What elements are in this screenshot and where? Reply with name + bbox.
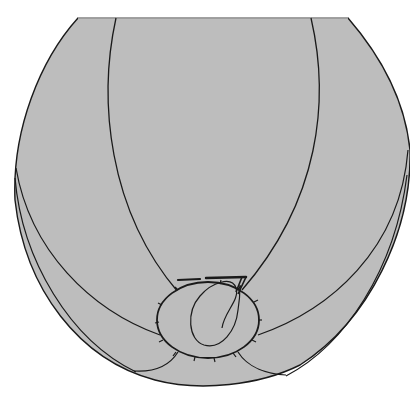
ball-illustration xyxy=(0,0,410,402)
illustration-canvas: Grayscale line illustration of a rounded… xyxy=(0,0,410,402)
oval-patch xyxy=(157,282,259,358)
